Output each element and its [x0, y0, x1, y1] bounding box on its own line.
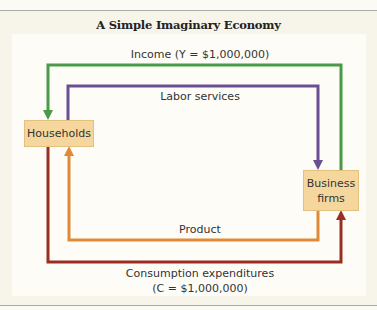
- consumption-label: Consumption expenditures: [80, 267, 320, 280]
- households-label: Households: [27, 126, 91, 141]
- labor-arrowhead-icon: [313, 160, 323, 170]
- business-firms-node: Business firms: [303, 170, 359, 211]
- consumption-flow-line: [48, 146, 341, 262]
- consumption-arrowhead-icon: [336, 210, 346, 220]
- income-arrowhead-icon: [43, 110, 53, 120]
- households-node: Households: [24, 120, 94, 147]
- income-flow-line: [48, 65, 341, 170]
- flow-arrows: [0, 0, 377, 310]
- consumption-value: (C = $1,000,000): [80, 282, 320, 295]
- business-label-line1: Business: [307, 176, 356, 191]
- income-label: Income (Y = $1,000,000): [100, 48, 300, 61]
- product-arrowhead-icon: [64, 146, 74, 156]
- business-label-line2: firms: [317, 191, 345, 206]
- product-label: Product: [100, 223, 300, 236]
- labor-label: Labor services: [100, 90, 300, 103]
